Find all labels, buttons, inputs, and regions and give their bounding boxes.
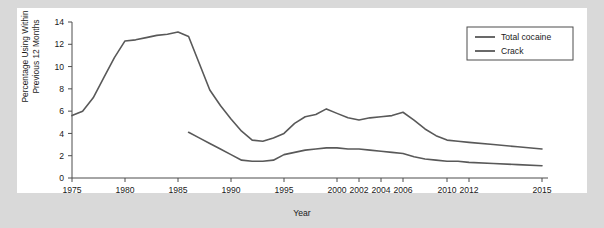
chart-figure: Percentage Using Within Previous 12 Mont… — [0, 0, 604, 228]
legend-label-crack: Crack — [501, 46, 524, 56]
x-tick-label: 1990 — [221, 185, 240, 195]
y-tick-label: 14 — [54, 17, 64, 27]
x-tick-label: 2004 — [371, 185, 390, 195]
x-tick-label: 1975 — [62, 185, 81, 195]
chart-plot-area: 0246810121419751980198519901995200020022… — [0, 0, 604, 228]
y-tick-label: 12 — [54, 39, 64, 49]
x-tick-label: 1995 — [274, 185, 293, 195]
x-tick-label: 2006 — [393, 185, 412, 195]
x-tick-label: 1985 — [168, 185, 187, 195]
x-axis-title: Year — [0, 208, 604, 218]
legend-layer: Total cocaineCrack — [467, 27, 573, 60]
y-tick-label: 8 — [59, 84, 64, 94]
series-line-crack — [189, 132, 542, 165]
y-tick-label: 10 — [54, 62, 64, 72]
x-tick-label: 1980 — [115, 185, 134, 195]
x-tick-label: 2002 — [349, 185, 368, 195]
legend-label-total-cocaine: Total cocaine — [501, 32, 551, 42]
y-tick-label: 4 — [59, 129, 64, 139]
x-tick-label: 2010 — [437, 185, 456, 195]
y-tick-label: 6 — [59, 106, 64, 116]
x-tick-label: 2000 — [327, 185, 346, 195]
y-tick-label: 2 — [59, 151, 64, 161]
y-tick-label: 0 — [59, 173, 64, 183]
x-tick-label: 2012 — [459, 185, 478, 195]
x-tick-label: 2015 — [532, 185, 551, 195]
